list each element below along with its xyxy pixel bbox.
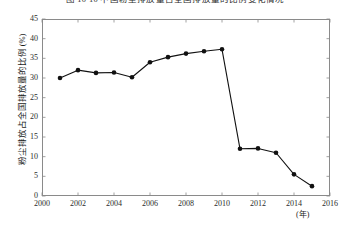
data-point [94,71,99,76]
x-axis-tick-label: 2002 [58,199,98,209]
data-point [292,172,297,177]
data-point [310,184,315,189]
data-point [202,49,207,54]
series-markers [58,47,315,188]
data-point [76,68,81,73]
x-axis-tick-label: 2006 [130,199,170,209]
x-axis-tick-label: 2008 [166,199,206,209]
figure-caption: 图 10-10 中国粉尘排放量占全国排放量的比例变化情况 [0,0,350,5]
x-axis-tick-label: 2004 [94,199,134,209]
data-point [256,146,261,151]
data-point [220,47,225,52]
y-axis-title: 粉尘排放占全国排放量的比例 (%) [18,10,27,190]
x-axis-title: (年) [296,210,309,219]
figure-root: 图 10-10 中国粉尘排放量占全国排放量的比例变化情况 45403530252… [0,0,350,226]
data-point [184,51,189,56]
x-axis-tick-label: 2014 [274,199,314,209]
data-point [58,76,63,81]
data-point [274,150,279,155]
series-line [60,49,312,186]
data-point [238,147,243,152]
x-axis-tick-label: 2016 [310,199,350,209]
x-axis-tick-label: 2012 [238,199,278,209]
data-point [148,60,153,65]
plot-area [42,19,330,196]
x-axis-tick-label: 2010 [202,199,242,209]
data-point [130,75,135,80]
data-point [112,70,117,75]
data-point [166,55,171,60]
axis-tick-marks [42,19,330,196]
x-axis-tick-label: 2000 [22,199,62,209]
